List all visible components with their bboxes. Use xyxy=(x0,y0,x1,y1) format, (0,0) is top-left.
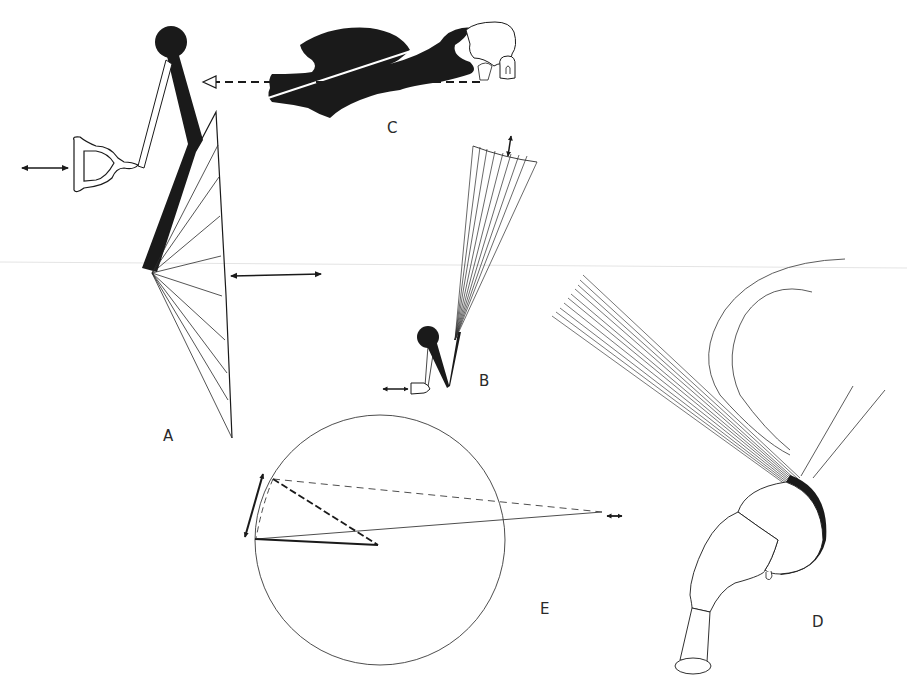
panel-c-silhouette xyxy=(268,28,474,119)
panel-b-rod xyxy=(425,346,428,386)
panel-d: D xyxy=(552,259,885,674)
panel-e-dashed-side xyxy=(273,479,378,545)
panel-b-vertical-double-arrow xyxy=(508,136,511,156)
panel-e-label: E xyxy=(540,600,549,618)
panel-d-straight-hair-1 xyxy=(801,386,853,476)
panel-e-dashed-line-far xyxy=(273,479,602,512)
panel-a-fan-edge xyxy=(196,112,232,438)
panel-b-reed xyxy=(411,383,430,394)
panel-d-stalk xyxy=(680,608,710,662)
panel-c-label: C xyxy=(387,119,397,137)
panel-a-label: A xyxy=(163,427,174,445)
panel-d-outer-curved-hair xyxy=(709,259,845,455)
panel-a-rod xyxy=(138,60,172,168)
panel-c-arrowhead-icon xyxy=(203,76,216,88)
panel-d-label: D xyxy=(812,613,824,631)
panel-d-straight-hair-2 xyxy=(813,390,885,478)
panel-b-label: B xyxy=(479,372,489,390)
panel-b-fan-lines xyxy=(455,146,537,340)
figure-canvas: A C xyxy=(0,0,907,691)
panel-b-fan-arc xyxy=(473,146,537,162)
panel-c: C xyxy=(203,22,516,137)
panel-a-right-double-arrow xyxy=(231,274,321,276)
panel-e-solid-line-far xyxy=(256,512,602,539)
panel-e-bottom-side xyxy=(255,539,378,545)
panel-c-grip-tip xyxy=(500,56,515,79)
panel-d-base xyxy=(675,658,711,674)
panel-a-lever xyxy=(142,52,203,272)
scan-artifact-line xyxy=(0,262,907,268)
panel-e: E xyxy=(245,415,622,665)
panel-c-grip-base xyxy=(478,63,492,80)
panel-d-hair-tuft xyxy=(552,275,800,487)
panel-d-droplet xyxy=(766,571,772,580)
